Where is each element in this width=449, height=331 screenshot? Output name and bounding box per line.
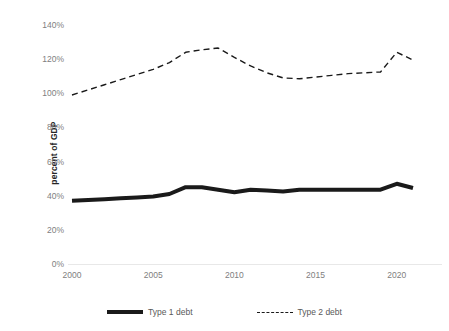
dashed-line-swatch: [257, 312, 293, 313]
series-line: [72, 184, 413, 201]
legend-label: Type 2 debt: [298, 307, 342, 317]
plot-area: [0, 0, 449, 331]
chart-legend: Type 1 debtType 2 debt: [0, 300, 449, 324]
legend-item[interactable]: Type 1 debt: [107, 307, 192, 317]
chart-container: percent of GDP 0%20%40%60%80%100%120%140…: [0, 0, 449, 331]
legend-label: Type 1 debt: [148, 307, 192, 317]
series-line: [72, 48, 413, 95]
legend-item[interactable]: Type 2 debt: [257, 307, 342, 317]
solid-line-swatch: [107, 310, 143, 314]
